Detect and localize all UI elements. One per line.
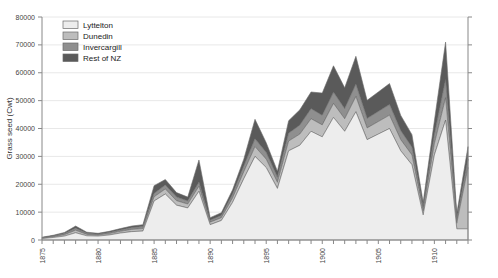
y-axis-title: Grass seed (Cwt) — [5, 97, 14, 160]
legend-swatch-lyttelton — [63, 21, 78, 29]
legend-label-lyttelton: Lyttelton — [83, 21, 113, 30]
y-axis-tick-label: 0 — [31, 237, 35, 244]
legend-swatch-rest-of-nz — [63, 54, 78, 62]
y-axis-tick-label: 40000 — [16, 125, 36, 132]
legend-swatch-invercargill — [63, 43, 78, 51]
y-axis-tick-label: 70000 — [16, 41, 36, 48]
stacked-area-chart: 0100002000030000400005000060000700008000… — [0, 0, 498, 278]
x-axis-tick-label: 1895 — [263, 248, 270, 264]
x-axis-tick-label: 1905 — [375, 248, 382, 264]
y-axis-tick-label: 10000 — [16, 209, 36, 216]
chart-canvas: 0100002000030000400005000060000700008000… — [0, 0, 498, 278]
y-axis-tick-label: 50000 — [16, 97, 36, 104]
y-axis-tick-label: 80000 — [16, 14, 36, 21]
x-axis-tick-label: 1875 — [39, 248, 46, 264]
x-axis-tick-label: 1910 — [431, 248, 438, 264]
legend-label-invercargill: Invercargill — [83, 43, 122, 52]
legend-label-dunedin: Dunedin — [83, 32, 113, 41]
x-axis-tick-label: 1885 — [151, 248, 158, 264]
legend-swatch-dunedin — [63, 32, 78, 40]
x-axis-tick-label: 1880 — [95, 248, 102, 264]
x-axis-tick-label: 1890 — [207, 248, 214, 264]
legend-label-rest-of-nz: Rest of NZ — [83, 54, 121, 63]
x-axis-tick-label: 1900 — [319, 248, 326, 264]
y-axis-tick-label: 20000 — [16, 181, 36, 188]
y-axis-tick-label: 60000 — [16, 69, 36, 76]
y-axis-tick-label: 30000 — [16, 153, 36, 160]
